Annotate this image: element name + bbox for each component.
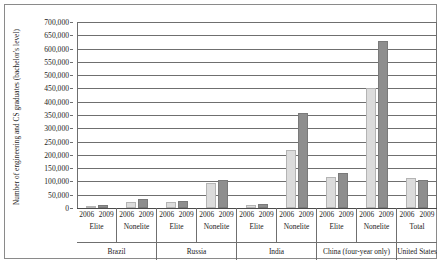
x-axis-year-label: 2009: [420, 210, 435, 219]
y-axis-tick-label: 250,000: [44, 137, 69, 146]
y-axis-tick-labels: 700,000650,000600,000550,000500,000450,0…: [29, 22, 73, 208]
x-axis-year-labels: 20062009: [237, 210, 276, 219]
y-axis-tick: [70, 88, 73, 89]
y-axis-tick: [70, 168, 73, 169]
y-axis-tick-label: 550,000: [44, 57, 69, 66]
y-axis-tick: [70, 49, 73, 50]
bar: [286, 150, 297, 208]
bar: [338, 173, 349, 208]
chart-frame: Number of engineering and CS graduates (…: [4, 4, 437, 259]
x-axis-subgroup-cell: 20062009Nonelite: [357, 208, 397, 242]
x-axis-subgroup-label: Nonelite: [197, 222, 236, 231]
x-axis-subgroup-cell: 20062009Elite: [157, 208, 197, 242]
x-axis-year-label: 2006: [359, 210, 374, 219]
x-axis-year-labels: 20062009: [397, 210, 437, 219]
x-axis-year-labels: 20062009: [357, 210, 396, 219]
y-axis-tick-label: 700,000: [44, 18, 69, 27]
y-axis-tick-label: 50,000: [48, 190, 69, 199]
x-axis-subgroup-cell: 20062009Total: [397, 208, 437, 242]
x-axis-year-label: 2009: [139, 210, 154, 219]
x-axis-subgroup-cell: 20062009Elite: [77, 208, 117, 242]
x-axis-subgroup-label: Elite: [157, 222, 196, 231]
bar: [178, 201, 189, 208]
x-axis: 20062009Elite20062009NoneliteBrazil20062…: [77, 208, 437, 260]
x-axis-year-label: 2009: [339, 210, 354, 219]
x-axis-year-labels: 20062009: [157, 210, 196, 219]
plot-area: [77, 22, 437, 208]
y-axis-tick-label: 450,000: [44, 84, 69, 93]
y-axis-tick-label: 0: [65, 204, 69, 213]
x-axis-subgroup-label: Elite: [317, 222, 356, 231]
y-axis-tick-label: 100,000: [44, 177, 69, 186]
x-axis-year-label: 2009: [259, 210, 274, 219]
y-axis-tick-label: 600,000: [44, 44, 69, 53]
y-axis-tick-label: 150,000: [44, 164, 69, 173]
x-axis-subgroup-label: Nonelite: [277, 222, 316, 231]
y-axis-tick-label: 300,000: [44, 124, 69, 133]
x-axis-subgroup-cell: 20062009Nonelite: [117, 208, 157, 242]
x-axis-country-label: United States: [397, 242, 437, 260]
y-axis-tick: [70, 62, 73, 63]
x-axis-year-label: 2006: [159, 210, 174, 219]
x-axis-subgroup-cell: 20062009Elite: [317, 208, 357, 242]
x-axis-year-label: 2009: [179, 210, 194, 219]
x-axis-subgroup-cell: 20062009Nonelite: [277, 208, 317, 242]
y-axis-tick-label: 650,000: [44, 31, 69, 40]
y-axis-tick: [70, 75, 73, 76]
bar: [218, 180, 229, 208]
bar: [298, 113, 309, 208]
x-axis-subgroup-label: Elite: [237, 222, 276, 231]
x-axis-year-label: 2009: [299, 210, 314, 219]
bars-layer: [77, 22, 437, 208]
y-axis-title: Number of engineering and CS graduates (…: [10, 17, 26, 217]
y-axis-tick: [70, 35, 73, 36]
y-axis-tick: [70, 22, 73, 23]
x-axis-country-label: Brazil: [77, 242, 157, 260]
x-axis-year-label: 2009: [219, 210, 234, 219]
y-axis-tick: [70, 115, 73, 116]
x-axis-year-labels: 20062009: [317, 210, 356, 219]
x-axis-year-labels: 20062009: [77, 210, 116, 219]
bar: [418, 180, 429, 208]
y-axis-tick-label: 350,000: [44, 111, 69, 120]
x-axis-country-label: India: [237, 242, 317, 260]
y-axis-tick: [70, 155, 73, 156]
y-axis-tick: [70, 195, 73, 196]
x-axis-subgroup-label: Elite: [77, 222, 116, 231]
y-axis-tick: [70, 142, 73, 143]
y-axis-tick-label: 400,000: [44, 97, 69, 106]
x-axis-year-label: 2006: [199, 210, 214, 219]
x-axis-year-label: 2006: [119, 210, 134, 219]
bar: [378, 41, 389, 208]
x-axis-year-labels: 20062009: [117, 210, 156, 219]
bar: [206, 183, 217, 209]
x-axis-country-label: China (four-year only): [317, 242, 397, 260]
bar: [406, 178, 417, 208]
y-axis-tick: [70, 181, 73, 182]
y-axis-tick: [70, 208, 73, 209]
y-axis-tick-label: 200,000: [44, 150, 69, 159]
x-axis-subgroup-label: Nonelite: [357, 222, 396, 231]
x-axis-year-label: 2006: [319, 210, 334, 219]
y-axis-tick: [70, 102, 73, 103]
x-axis-year-label: 2006: [400, 210, 415, 219]
x-axis-year-label: 2006: [239, 210, 254, 219]
bar: [326, 177, 337, 208]
x-axis-subgroup-cell: 20062009Nonelite: [197, 208, 237, 242]
y-axis-tick: [70, 128, 73, 129]
x-axis-country-label: Russia: [157, 242, 237, 260]
x-axis-year-label: 2006: [279, 210, 294, 219]
x-axis-year-label: 2006: [79, 210, 94, 219]
x-axis-year-label: 2009: [379, 210, 394, 219]
x-axis-year-labels: 20062009: [197, 210, 236, 219]
x-axis-subgroup-cell: 20062009Elite: [237, 208, 277, 242]
bar: [366, 88, 377, 208]
bar: [138, 199, 149, 208]
x-axis-year-label: 2009: [99, 210, 114, 219]
y-axis-title-text: Number of engineering and CS graduates (…: [14, 29, 21, 205]
x-axis-subgroup-label: Total: [397, 222, 437, 231]
y-axis-tick-label: 500,000: [44, 71, 69, 80]
x-axis-year-labels: 20062009: [277, 210, 316, 219]
x-axis-subgroup-label: Nonelite: [117, 222, 156, 231]
